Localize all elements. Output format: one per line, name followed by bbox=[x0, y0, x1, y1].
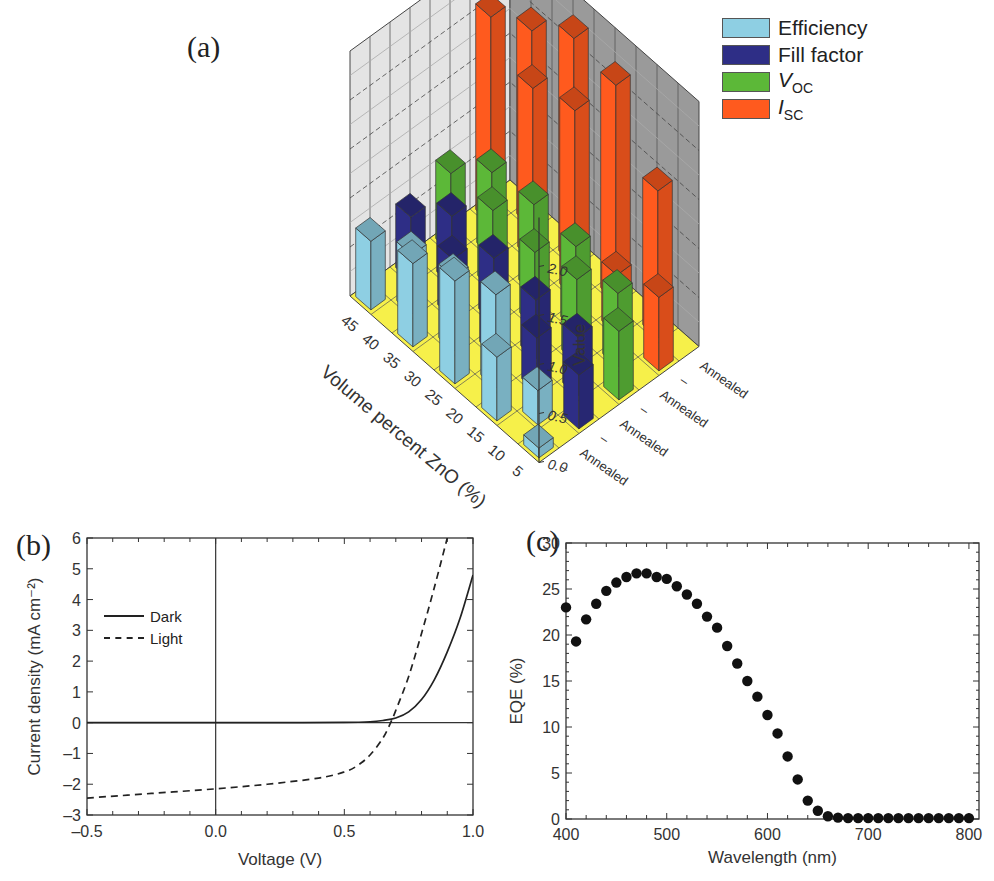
bar-efficiency bbox=[398, 240, 428, 347]
legend-item-dark: Dark bbox=[104, 605, 183, 627]
x-axis-title: Voltage (V) bbox=[238, 850, 322, 869]
x-tick-label: 700 bbox=[855, 826, 882, 843]
data-point bbox=[651, 572, 661, 582]
y-category-label: Annealed bbox=[577, 445, 631, 489]
bar-voc bbox=[604, 308, 634, 400]
bar-isc bbox=[644, 274, 674, 371]
data-point bbox=[792, 774, 802, 784]
data-point bbox=[692, 599, 702, 609]
data-point bbox=[672, 581, 682, 591]
y-category-label: – bbox=[677, 372, 692, 389]
x-tick-label: 1.0 bbox=[462, 823, 484, 840]
legend-swatch bbox=[722, 99, 770, 119]
y-tick-label: 1 bbox=[72, 684, 81, 701]
data-point bbox=[712, 622, 722, 632]
x-tick-label: 800 bbox=[956, 826, 983, 843]
x-category-label: 45 bbox=[338, 311, 362, 335]
x-category-label: 25 bbox=[422, 385, 446, 409]
y-category-label: – bbox=[637, 401, 652, 418]
data-point bbox=[631, 568, 641, 578]
data-point bbox=[883, 813, 893, 823]
x-category-label: 40 bbox=[359, 330, 383, 354]
data-point bbox=[571, 636, 581, 646]
data-point bbox=[934, 813, 944, 823]
y-tick-label: 10 bbox=[542, 719, 560, 736]
legend-label: Dark bbox=[150, 608, 182, 625]
legend-item-voc: VOC bbox=[722, 68, 868, 95]
eqe-scatter-chart: 400500600700800051015202530Wavelength (n… bbox=[500, 520, 994, 881]
data-point bbox=[742, 676, 752, 686]
legend-label: Efficiency bbox=[778, 16, 868, 40]
legend-label: Light bbox=[150, 630, 183, 647]
data-point bbox=[903, 813, 913, 823]
x-tick-label: 0.5 bbox=[333, 823, 355, 840]
y-category-label: Annealed bbox=[657, 387, 711, 431]
series-light-line bbox=[87, 538, 447, 798]
data-point bbox=[913, 813, 923, 823]
x-tick-label: 600 bbox=[754, 826, 781, 843]
x-category-label: 5 bbox=[509, 462, 526, 480]
y-tick-label: 5 bbox=[72, 561, 81, 578]
data-point bbox=[833, 812, 843, 822]
data-point bbox=[621, 572, 631, 582]
data-point bbox=[581, 614, 591, 624]
legend-item-efficiency: Efficiency bbox=[722, 14, 868, 41]
data-point bbox=[944, 813, 954, 823]
legend-b: Dark Light bbox=[104, 605, 183, 649]
bar-efficiency bbox=[440, 257, 470, 384]
data-point bbox=[732, 658, 742, 668]
plot-frame bbox=[566, 543, 979, 819]
x-axis-title: Wavelength (nm) bbox=[708, 848, 837, 867]
y-tick-label: –2 bbox=[63, 776, 81, 793]
data-point bbox=[641, 568, 651, 578]
x-category-label: 35 bbox=[380, 348, 404, 372]
legend-item-fill-factor: Fill factor bbox=[722, 41, 868, 68]
data-point bbox=[561, 602, 571, 612]
bar-efficiency bbox=[356, 218, 386, 310]
legend-item-light: Light bbox=[104, 627, 183, 649]
x-tick-label: –0.5 bbox=[71, 823, 102, 840]
data-point bbox=[782, 751, 792, 761]
data-point bbox=[611, 577, 621, 587]
data-point bbox=[662, 574, 672, 584]
y-tick-label: 4 bbox=[72, 592, 81, 609]
data-point bbox=[752, 691, 762, 701]
y-tick-label: 25 bbox=[542, 581, 560, 598]
y-category-label: Annealed bbox=[697, 358, 751, 402]
legend-swatch bbox=[722, 72, 770, 92]
data-point bbox=[893, 813, 903, 823]
x-category-label: 20 bbox=[443, 404, 467, 428]
legend-item-isc: ISC bbox=[722, 95, 868, 122]
data-point bbox=[813, 806, 823, 816]
bar-efficiency bbox=[482, 333, 512, 421]
data-point bbox=[601, 586, 611, 596]
y-tick-label: –3 bbox=[63, 807, 81, 824]
y-tick-label: 0 bbox=[72, 715, 81, 732]
data-point bbox=[762, 710, 772, 720]
data-point bbox=[964, 813, 974, 823]
x-category-label: 30 bbox=[401, 367, 425, 391]
data-point bbox=[803, 795, 813, 805]
data-point bbox=[843, 813, 853, 823]
x-tick-label: 0.0 bbox=[205, 823, 227, 840]
plot-frame bbox=[87, 538, 473, 815]
data-point bbox=[772, 728, 782, 738]
x-tick-label: 500 bbox=[653, 826, 680, 843]
y-tick-label: 20 bbox=[542, 627, 560, 644]
x-category-label: 10 bbox=[485, 441, 509, 465]
data-point bbox=[591, 599, 601, 609]
x-tick-label: 400 bbox=[553, 826, 580, 843]
z-axis-title: Value bbox=[570, 324, 589, 366]
dashed-line-swatch bbox=[104, 637, 144, 639]
data-point bbox=[863, 813, 873, 823]
legend-swatch bbox=[722, 45, 770, 65]
data-point bbox=[923, 813, 933, 823]
y-axis-title: EQE (%) bbox=[507, 657, 526, 724]
y-axis-title: Current density (mA cm⁻²) bbox=[25, 578, 44, 776]
y-tick-label: 2 bbox=[72, 653, 81, 670]
x-category-label: 15 bbox=[464, 422, 488, 446]
y-tick-label: 0 bbox=[551, 811, 560, 828]
y-tick-label: –1 bbox=[63, 745, 81, 762]
y-tick-label: 3 bbox=[72, 622, 81, 639]
jv-line-chart: –0.50.00.51.0–3–2–10123456Voltage (V)Cur… bbox=[0, 520, 500, 881]
